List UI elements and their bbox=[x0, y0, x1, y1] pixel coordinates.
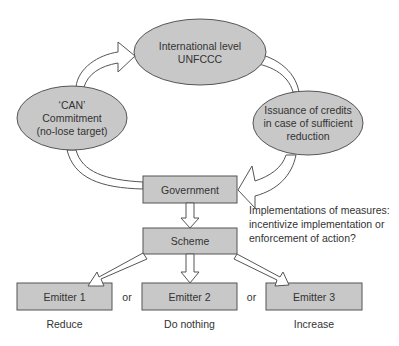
outcome-emitter3: Increase bbox=[266, 317, 362, 331]
government-label: Government bbox=[143, 176, 237, 203]
annotation-line3: enforcement of action? bbox=[249, 231, 390, 245]
arrow-can-to-government bbox=[67, 150, 143, 189]
outcome-emitter1: Reduce bbox=[17, 317, 112, 331]
or-connector-1: or bbox=[112, 283, 142, 310]
arrow-scheme-to-emitter1 bbox=[88, 253, 147, 286]
or-connector-2: or bbox=[237, 283, 266, 310]
annotation-line1: Implementations of measures: bbox=[249, 203, 390, 217]
can-line3: (no-lose target) bbox=[17, 125, 127, 138]
international-line1: International level bbox=[134, 40, 266, 53]
can-line2: Commitment bbox=[17, 112, 127, 125]
issuance-line2: in case of sufficient bbox=[253, 117, 363, 130]
emitter2-label: Emitter 2 bbox=[142, 283, 237, 310]
emitter3-label: Emitter 3 bbox=[266, 283, 362, 310]
arrow-scheme-to-emitter3 bbox=[234, 254, 289, 286]
international-line2: UNFCCC bbox=[134, 53, 266, 66]
issuance-line1: Issuance of credits bbox=[253, 104, 363, 117]
arrow-government-to-scheme bbox=[181, 203, 199, 228]
international-label: International level UNFCCC bbox=[134, 40, 266, 66]
emitter1-label: Emitter 1 bbox=[17, 283, 112, 310]
issuance-line3: reduction bbox=[253, 130, 363, 143]
annotation-line2: incentivize implementation or bbox=[249, 217, 390, 231]
issuance-label: Issuance of credits in case of sufficien… bbox=[253, 104, 363, 143]
arrow-scheme-to-emitter2 bbox=[181, 254, 199, 283]
arrow-can-to-international bbox=[76, 42, 135, 87]
can-label: ‘CAN’ Commitment (no-lose target) bbox=[17, 99, 127, 138]
outcome-emitter2: Do nothing bbox=[142, 317, 237, 331]
scheme-label: Scheme bbox=[143, 228, 237, 254]
can-line1: ‘CAN’ bbox=[17, 99, 127, 112]
annotation-text: Implementations of measures: incentivize… bbox=[249, 203, 390, 245]
arrow-issuance-to-government bbox=[238, 155, 296, 208]
